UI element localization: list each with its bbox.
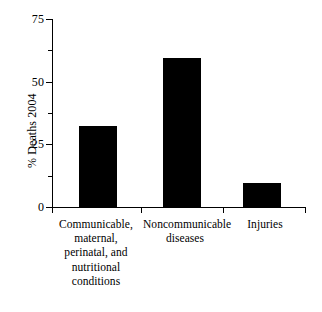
y-minor-tick-62-5 <box>48 50 53 51</box>
y-tick-label-75: 75 <box>2 13 44 25</box>
x-tick-sep-2 <box>223 207 224 213</box>
y-tick-mark-50 <box>46 82 53 83</box>
x-tick-end <box>305 207 306 213</box>
x-axis-label-category-0-line-4: conditions <box>48 274 144 288</box>
bar-communicable-maternal-perinatal-nutritional <box>79 126 117 207</box>
y-tick-label-0: 0 <box>2 201 44 213</box>
bar-injuries <box>243 183 281 207</box>
x-axis-label-category-1: Noncommunicable diseases <box>143 217 227 245</box>
y-tick-mark-75 <box>46 19 53 20</box>
x-axis-label-category-0-line-2: perinatal, and <box>48 245 144 259</box>
x-tick-start <box>52 207 53 213</box>
bar-noncommunicable-diseases <box>163 58 201 207</box>
x-axis-line <box>52 207 306 208</box>
x-axis-label-category-1-line-0: Noncommunicable <box>143 217 227 231</box>
y-tick-label-25-wrap: 25 <box>0 138 44 150</box>
x-axis-label-category-2: Injuries <box>230 217 300 231</box>
x-axis-label-category-0-line-0: Communicable, <box>48 217 144 231</box>
y-tick-label-75-wrap: 75 <box>0 13 44 25</box>
y-tick-mark-25 <box>46 144 53 145</box>
y-minor-tick-12-5 <box>48 176 53 177</box>
y-tick-label-0-wrap: 0 <box>0 201 44 213</box>
bar-chart-figure: % Deaths 2004 0 25 50 75 Communicable, m… <box>0 0 322 312</box>
x-axis-label-category-1-line-1: diseases <box>143 231 227 245</box>
x-tick-sep-1 <box>141 207 142 213</box>
x-axis-label-category-0: Communicable, maternal, perinatal, and n… <box>48 217 144 288</box>
y-tick-label-50-wrap: 50 <box>0 76 44 88</box>
x-axis-label-category-0-line-3: nutritional <box>48 260 144 274</box>
y-minor-tick-37-5 <box>48 113 53 114</box>
y-tick-label-25: 25 <box>2 138 44 150</box>
x-axis-label-category-0-line-1: maternal, <box>48 231 144 245</box>
x-axis-label-category-2-line-0: Injuries <box>230 217 300 231</box>
y-tick-label-50: 50 <box>2 76 44 88</box>
